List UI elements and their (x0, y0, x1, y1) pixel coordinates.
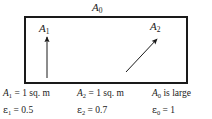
surface-label-a1: A1 (39, 23, 49, 36)
caption-column-3: A0 is large ε0 = 1 (152, 86, 191, 119)
caption-3-emissivity: ε0 = 1 (152, 103, 191, 119)
surface-label-a2-symbol: A (150, 20, 157, 32)
caption-3-emissivity-value: = 1 (160, 105, 175, 115)
caption-3-area-value: is large (161, 88, 191, 98)
radiation-enclosure-figure: A0 A1 A2 A1 = 1 sq. m ε1 = 0.5 A2 = 1 sq… (0, 0, 212, 119)
caption-column-2: A2 = 1 sq. m ε2 = 0.7 (77, 86, 124, 119)
surface-label-a1-subscript: 1 (46, 27, 50, 36)
caption-row: A1 = 1 sq. m ε1 = 0.5 A2 = 1 sq. m ε2 = … (0, 86, 212, 119)
caption-1-emissivity: ε1 = 0.5 (3, 103, 50, 119)
caption-1-emissivity-value: = 0.5 (11, 105, 33, 115)
caption-column-1: A1 = 1 sq. m ε1 = 0.5 (3, 86, 50, 119)
caption-1-area: A1 = 1 sq. m (3, 86, 50, 103)
surface-label-a2: A2 (150, 21, 160, 34)
caption-1-area-value: = 1 sq. m (12, 88, 50, 98)
caption-2-emissivity: ε2 = 0.7 (77, 103, 124, 119)
caption-3-area: A0 is large (152, 86, 191, 103)
caption-2-area: A2 = 1 sq. m (77, 86, 124, 103)
arrow-a2 (126, 39, 157, 72)
surface-label-a2-subscript: 2 (157, 25, 161, 34)
caption-2-emissivity-value: = 0.7 (85, 105, 107, 115)
surface-label-a1-symbol: A (39, 22, 46, 34)
caption-2-area-value: = 1 sq. m (86, 88, 124, 98)
